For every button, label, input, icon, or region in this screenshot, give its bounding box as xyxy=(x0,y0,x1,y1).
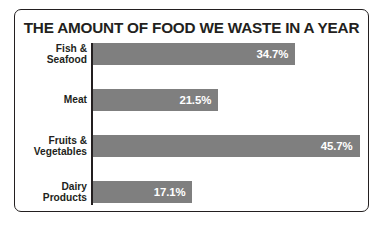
bar-value-label: 45.7% xyxy=(321,140,360,152)
bar-category-label: Fish & Seafood xyxy=(47,43,87,65)
bar-value-label: 34.7% xyxy=(257,48,296,60)
bar-fill: 45.7% xyxy=(93,135,360,157)
bar-fill: 17.1% xyxy=(93,181,193,203)
bar-row: Dairy Products 17.1% xyxy=(25,181,360,203)
chart-card: THE AMOUNT OF FOOD WE WASTE IN A YEAR Fi… xyxy=(14,9,369,212)
bar-category-label: Dairy Products xyxy=(43,181,87,203)
bar-row: Fruits & Vegetables 45.7% xyxy=(25,135,360,157)
bar-track: 17.1% xyxy=(93,181,193,203)
bar-fill: 21.5% xyxy=(93,89,219,111)
bar-track: 45.7% xyxy=(93,135,360,157)
bar-row: Fish & Seafood 34.7% xyxy=(25,43,360,65)
chart-title: THE AMOUNT OF FOOD WE WASTE IN A YEAR xyxy=(15,19,368,37)
bar-value-label: 17.1% xyxy=(154,186,193,198)
bar-category-label: Fruits & Vegetables xyxy=(34,135,87,157)
bar-fill: 34.7% xyxy=(93,43,296,65)
bar-track: 34.7% xyxy=(93,43,296,65)
bar-row: Meat 21.5% xyxy=(25,89,360,111)
bar-chart-plot-area: Fish & Seafood 34.7% Meat 21.5% Fruits &… xyxy=(25,43,360,205)
bar-track: 21.5% xyxy=(93,89,219,111)
bar-value-label: 21.5% xyxy=(179,94,218,106)
bar-category-label: Meat xyxy=(64,94,87,105)
